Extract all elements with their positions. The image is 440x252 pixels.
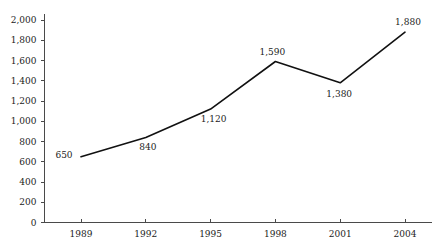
data-point-label: 1,590 bbox=[260, 47, 286, 57]
line-chart: 02004006008001,0001,2001,4001,6001,8002,… bbox=[0, 0, 440, 252]
data-point-label: 1,120 bbox=[201, 114, 227, 124]
data-point-label: 840 bbox=[139, 142, 156, 152]
x-tick-marks bbox=[81, 219, 405, 223]
y-tick-label: 1,600 bbox=[11, 56, 37, 66]
chart-canvas: 02004006008001,0001,2001,4001,6001,8002,… bbox=[0, 0, 440, 252]
y-tick-label: 800 bbox=[19, 137, 36, 147]
y-tick-label: 1,800 bbox=[11, 35, 37, 45]
y-tick-label: 1,000 bbox=[11, 116, 37, 126]
y-tick-label: 2,000 bbox=[11, 15, 37, 25]
series-group bbox=[81, 32, 405, 157]
y-tick-labels: 02004006008001,0001,2001,4001,6001,8002,… bbox=[11, 15, 37, 228]
y-tick-label: 200 bbox=[19, 197, 36, 207]
y-tick-label: 1,200 bbox=[11, 96, 37, 106]
series-line bbox=[81, 32, 405, 157]
y-tick-marks bbox=[41, 20, 45, 223]
x-axis-group: 198919921995199820012004 bbox=[45, 219, 433, 239]
data-point-label: 650 bbox=[55, 150, 72, 160]
y-tick-label: 0 bbox=[31, 218, 37, 228]
data-point-label: 1,880 bbox=[395, 17, 421, 27]
x-tick-labels: 198919921995199820012004 bbox=[70, 229, 417, 239]
x-tick-label: 1992 bbox=[134, 229, 157, 239]
x-tick-label: 2004 bbox=[394, 229, 417, 239]
data-point-label: 1,380 bbox=[326, 89, 352, 99]
x-tick-label: 1989 bbox=[70, 229, 93, 239]
x-tick-label: 2001 bbox=[329, 229, 352, 239]
y-tick-label: 600 bbox=[19, 157, 36, 167]
y-tick-label: 400 bbox=[19, 177, 36, 187]
y-axis-group: 02004006008001,0001,2001,4001,6001,8002,… bbox=[11, 14, 45, 228]
x-tick-label: 1995 bbox=[199, 229, 222, 239]
y-tick-label: 1,400 bbox=[11, 76, 37, 86]
x-tick-label: 1998 bbox=[264, 229, 287, 239]
